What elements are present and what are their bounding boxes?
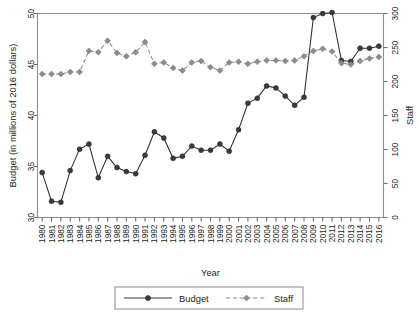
data-point-budget	[376, 44, 381, 49]
data-point-staff	[310, 48, 316, 54]
data-point-budget	[124, 169, 129, 174]
data-point-staff	[282, 58, 288, 64]
data-point-budget	[58, 200, 63, 205]
y-tick-label: 35	[26, 162, 36, 172]
x-axis-title: Year	[201, 267, 220, 278]
data-point-staff	[161, 59, 167, 65]
data-point-budget	[152, 129, 157, 134]
y-axis-title: Budget (in millions of 2016 dollars)	[7, 44, 18, 188]
data-point-staff	[376, 54, 382, 60]
data-point-budget	[320, 11, 325, 16]
data-point-budget	[180, 154, 185, 159]
data-point-staff	[254, 59, 260, 65]
data-point-staff	[49, 71, 55, 77]
data-point-staff	[301, 53, 307, 59]
data-point-staff	[86, 48, 92, 54]
data-point-staff	[95, 49, 101, 55]
data-point-budget	[273, 85, 278, 90]
data-point-budget	[245, 101, 250, 106]
data-point-budget	[114, 165, 119, 170]
data-point-staff	[264, 57, 270, 63]
plot-frame	[38, 14, 384, 218]
data-point-staff	[366, 55, 372, 61]
y2-tick-label: 200	[390, 74, 400, 88]
data-point-staff	[245, 61, 251, 67]
data-point-budget	[227, 149, 232, 154]
data-point-budget	[40, 170, 45, 175]
y-axis-right: 050100150200250300	[384, 6, 400, 220]
data-point-budget	[283, 94, 288, 99]
data-point-budget	[77, 147, 82, 152]
y-axis-left: 3035404550	[26, 9, 38, 223]
legend-label-staff[interactable]: Staff	[274, 293, 294, 304]
data-point-staff	[357, 58, 363, 64]
chart-figure: 3035404550 050100150200250300 1980198119…	[0, 0, 419, 318]
data-point-budget	[105, 154, 110, 159]
legend-marker-budget	[145, 295, 150, 300]
data-point-budget	[358, 46, 363, 51]
data-point-staff	[77, 69, 83, 75]
series-line-budget	[42, 12, 379, 202]
data-point-budget	[143, 153, 148, 158]
data-point-budget	[68, 168, 73, 173]
data-point-staff	[58, 71, 64, 77]
data-point-budget	[161, 135, 166, 140]
data-point-staff	[39, 71, 45, 77]
data-point-budget	[171, 156, 176, 161]
y2-tick-label: 100	[390, 142, 400, 156]
data-point-budget	[311, 15, 316, 20]
data-point-staff	[170, 65, 176, 71]
x-axis: 1980198119821983198419851986198719881989…	[37, 218, 384, 243]
y2-tick-label: 150	[390, 108, 400, 122]
data-point-staff	[198, 58, 204, 64]
data-point-budget	[330, 10, 335, 15]
data-point-budget	[367, 46, 372, 51]
data-point-staff	[208, 64, 214, 70]
y2-tick-label: 250	[390, 40, 400, 54]
y2-tick-label: 0	[390, 215, 400, 220]
chart-legend[interactable]: BudgetStaff	[115, 287, 303, 309]
y2-axis-title: Staff	[404, 106, 415, 126]
data-point-staff	[123, 53, 129, 59]
data-point-budget	[133, 171, 138, 176]
data-point-budget	[236, 127, 241, 132]
y-tick-label: 50	[26, 9, 36, 19]
data-point-staff	[151, 61, 157, 67]
data-point-budget	[264, 83, 269, 88]
data-point-staff	[329, 49, 335, 55]
data-point-staff	[236, 59, 242, 65]
y2-tick-label: 300	[390, 6, 400, 20]
y-tick-label: 40	[26, 111, 36, 121]
data-point-budget	[86, 142, 91, 147]
data-point-budget	[255, 96, 260, 101]
x-tick-label: 2016	[374, 224, 384, 243]
data-point-budget	[217, 142, 222, 147]
data-point-budget	[292, 103, 297, 108]
plot-area-border	[38, 14, 384, 218]
data-point-budget	[199, 148, 204, 153]
y-tick-label: 30	[26, 213, 36, 223]
y2-tick-label: 50	[390, 179, 400, 189]
data-point-staff	[320, 46, 326, 52]
chart-canvas: 3035404550 050100150200250300 1980198119…	[0, 0, 419, 318]
y-tick-label: 45	[26, 60, 36, 70]
data-point-budget	[189, 144, 194, 149]
data-point-budget	[96, 175, 101, 180]
data-point-staff	[273, 57, 279, 63]
data-point-budget	[208, 148, 213, 153]
data-series-group	[39, 10, 382, 205]
data-point-staff	[67, 69, 73, 75]
data-point-staff	[292, 57, 298, 63]
data-point-budget	[302, 95, 307, 100]
legend-label-budget[interactable]: Budget	[179, 293, 209, 304]
data-point-budget	[49, 199, 54, 204]
